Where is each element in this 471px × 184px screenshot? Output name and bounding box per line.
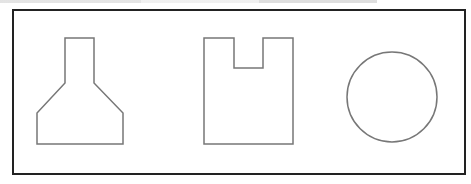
diagram-canvas [0, 0, 471, 184]
flask-shape [37, 38, 123, 144]
circle-shape [347, 52, 437, 142]
diagram-frame [13, 10, 465, 174]
notched-rectangle-shape [204, 38, 293, 144]
